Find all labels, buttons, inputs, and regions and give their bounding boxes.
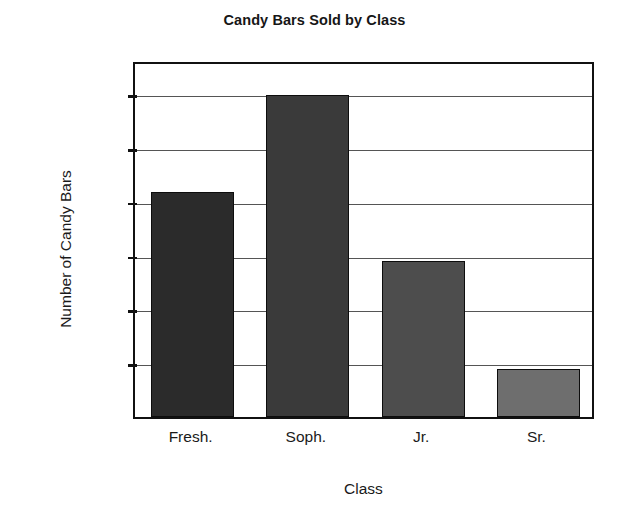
bar <box>266 95 349 417</box>
bar <box>497 369 580 417</box>
x-axis-tick-label: Sr. <box>527 428 546 446</box>
plot-area <box>133 62 594 419</box>
x-axis-title: Class <box>133 480 594 498</box>
y-axis-tick <box>128 95 137 98</box>
gridline <box>135 150 592 151</box>
y-axis-tick <box>128 257 137 260</box>
y-axis-title: Number of Candy Bars <box>57 99 75 399</box>
x-axis-tick-label: Fresh. <box>169 428 213 446</box>
y-axis-tick <box>128 364 137 367</box>
bar <box>382 261 465 417</box>
x-axis-tick-label: Soph. <box>286 428 327 446</box>
x-axis-tick-label: Jr. <box>413 428 429 446</box>
y-axis-tick <box>128 203 137 206</box>
chart-title: Candy Bars Sold by Class <box>0 12 629 28</box>
y-axis-tick <box>128 310 137 313</box>
y-axis-tick <box>128 149 137 152</box>
bar <box>151 192 234 417</box>
gridline <box>135 96 592 97</box>
bar-chart-figure: Candy Bars Sold by Class 2,0002,1002,200… <box>0 0 629 522</box>
